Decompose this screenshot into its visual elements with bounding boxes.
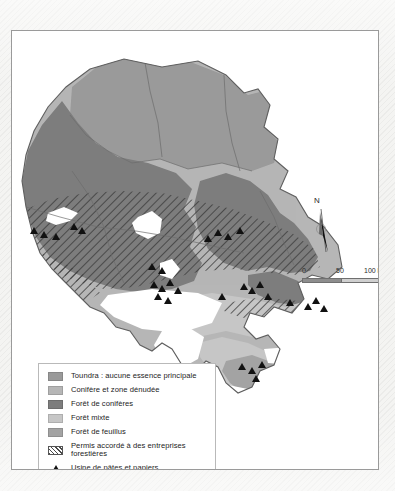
compass-needle-icon	[302, 196, 346, 258]
tundra-swatch	[48, 372, 63, 381]
conifer-forest-swatch	[48, 400, 63, 409]
scale-tick-0: 0	[302, 267, 306, 274]
mixed-forest-swatch	[48, 414, 63, 423]
legend-label-mixed-forest: Forêt mixte	[71, 414, 110, 422]
lake-sw	[18, 269, 56, 297]
lake-ontario	[264, 347, 302, 365]
pulp-mill-marker	[304, 303, 312, 310]
compass-rose: N	[302, 196, 346, 258]
deciduous-forest-swatch	[48, 428, 63, 437]
scale-bar-graphic	[302, 278, 379, 283]
legend-item-mixed-forest[interactable]: Forêt mixte	[48, 414, 207, 423]
legend-label-conifer-forest: Forêt de conifères	[71, 400, 133, 408]
legend-item-conifer-bare[interactable]: Conifère et zone dénudée	[48, 386, 207, 395]
logging-permit-swatch	[48, 446, 63, 455]
legend-item-deciduous-forest[interactable]: Forêt de feuillus	[48, 428, 207, 437]
map-legend: Toundra : aucune essence principale Coni…	[38, 363, 216, 470]
conifer-bare-swatch	[48, 386, 63, 395]
compass-north-label: N	[314, 196, 320, 205]
legend-item-pulp-mill[interactable]: Usine de pâtes et papiers	[48, 464, 207, 470]
legend-label-deciduous-forest: Forêt de feuillus	[71, 428, 126, 436]
scale-bar-filled	[303, 279, 341, 282]
scale-tick-100: 100 km	[364, 267, 379, 274]
legend-label-logging-permit: Permis accordé à des entreprises foresti…	[71, 442, 207, 459]
scale-tick-50: 50	[336, 267, 344, 274]
pulp-mill-swatch	[48, 464, 63, 470]
scale-bar: 0 50 100 km	[302, 267, 379, 283]
pulp-mill-marker	[312, 297, 320, 304]
legend-label-conifer-bare: Conifère et zone dénudée	[71, 386, 160, 394]
legend-label-pulp-mill: Usine de pâtes et papiers	[71, 464, 158, 470]
legend-item-tundra[interactable]: Toundra : aucune essence principale	[48, 372, 207, 381]
legend-item-logging-permit[interactable]: Permis accordé à des entreprises foresti…	[48, 442, 207, 459]
scale-bar-midtick	[341, 279, 342, 282]
pulp-mill-marker	[320, 305, 328, 312]
map-panel: N 0 50 100 km Toundra : aucune essence p…	[11, 30, 379, 470]
region-deciduous-forest-southeast	[278, 315, 338, 343]
legend-item-conifer-forest[interactable]: Forêt de conifères	[48, 400, 207, 409]
legend-label-tundra: Toundra : aucune essence principale	[71, 372, 196, 380]
